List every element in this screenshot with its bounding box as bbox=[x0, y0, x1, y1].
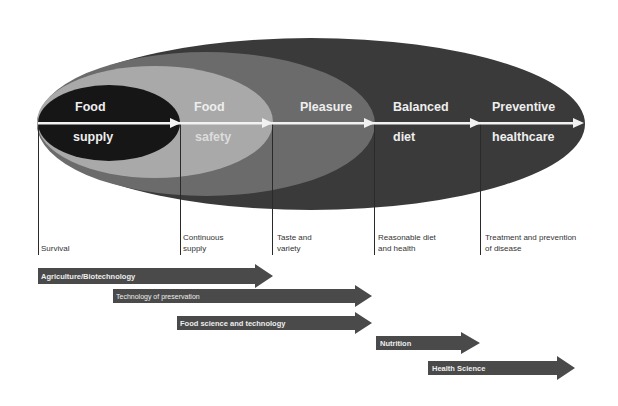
axis-line bbox=[38, 122, 578, 125]
stage-label-line2: safety bbox=[195, 130, 231, 144]
milestone-label: supply bbox=[183, 244, 206, 253]
band-nutrition: Nutrition bbox=[376, 332, 480, 354]
discipline-bands: Agriculture/Biotechnology Technology of … bbox=[38, 264, 575, 380]
milestone-label: Treatment and prevention bbox=[485, 233, 576, 242]
band-label: Health Science bbox=[432, 364, 485, 373]
stage-label-line1: Balanced bbox=[393, 100, 449, 114]
stage-label-line2: supply bbox=[73, 130, 113, 144]
food-evolution-diagram: Food supply Food safety Pleasure Balance… bbox=[0, 0, 618, 406]
milestone-label: variety bbox=[277, 244, 301, 253]
band-label: Agriculture/Biotechnology bbox=[41, 272, 136, 281]
milestone-label: of disease bbox=[485, 244, 522, 253]
milestone-label: Taste and bbox=[277, 233, 312, 242]
band-health-science: Health Science bbox=[428, 356, 575, 380]
milestone-label: and health bbox=[378, 244, 415, 253]
stage-label-line1: Food bbox=[194, 100, 225, 114]
stage-label-line2: healthcare bbox=[492, 130, 555, 144]
band-food-science-technology: Food science and technology bbox=[177, 312, 372, 334]
band-technology-of-preservation: Technology of preservation bbox=[113, 285, 372, 307]
stage-label-line1: Pleasure bbox=[300, 100, 352, 114]
milestone-label: Reasonable diet bbox=[378, 233, 437, 242]
band-agriculture-biotechnology: Agriculture/Biotechnology bbox=[38, 264, 273, 288]
milestone-label: Survival bbox=[41, 244, 70, 253]
band-label: Technology of preservation bbox=[116, 293, 200, 301]
band-label: Nutrition bbox=[380, 339, 412, 348]
milestone-label: Continuous bbox=[183, 233, 223, 242]
stage-label-line1: Food bbox=[75, 100, 106, 114]
stage-label-line1: Preventive bbox=[492, 100, 555, 114]
milestone-labels: Survival Continuous supply Taste and var… bbox=[41, 233, 576, 253]
stage-label-line2: diet bbox=[393, 130, 416, 144]
band-label: Food science and technology bbox=[180, 319, 286, 328]
